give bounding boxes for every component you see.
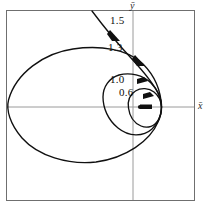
arrowhead-1-0 <box>137 77 148 84</box>
curve-label-1-3: 1.3 <box>108 42 122 53</box>
curve-label-1-0: 1.0 <box>110 74 124 85</box>
arrowhead-1-3 <box>132 55 145 66</box>
x-axis-label: x̄ <box>198 101 202 111</box>
arrowhead-1-5 <box>107 30 120 41</box>
plot-frame <box>7 11 195 201</box>
curve-label-0-6: 0.6 <box>119 87 133 98</box>
plot-canvas <box>0 0 216 207</box>
phase-plane-figure: 1.5 1.3 1.0 0.6 ȳ x̄ <box>0 0 216 207</box>
curve-label-1-5: 1.5 <box>110 15 124 26</box>
equilibrium-point-marker <box>138 105 142 109</box>
arrowhead-0-6 <box>143 92 154 99</box>
y-axis-label: ȳ <box>130 1 134 11</box>
